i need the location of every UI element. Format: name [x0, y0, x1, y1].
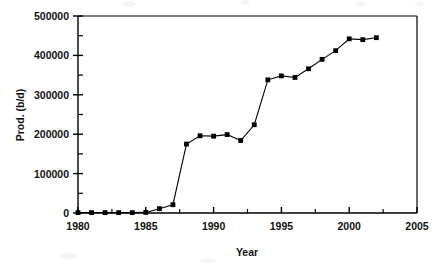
- data-point-marker: [198, 133, 203, 138]
- data-point-marker: [130, 210, 135, 215]
- y-tick-label: 200000: [34, 128, 69, 140]
- y-tick-label: 400000: [34, 49, 69, 61]
- data-series-markers: [76, 35, 379, 215]
- data-point-marker: [238, 138, 243, 143]
- data-point-marker: [89, 210, 94, 215]
- data-point-marker: [103, 210, 108, 215]
- data-point-marker: [184, 142, 189, 147]
- data-point-marker: [157, 206, 162, 211]
- data-point-marker: [333, 48, 338, 53]
- chart-figure: 198019851990199520002005 010000020000030…: [0, 0, 444, 269]
- line-chart-plot: 198019851990199520002005 010000020000030…: [0, 0, 444, 269]
- x-axis-tick-labels: 198019851990199520002005: [66, 220, 429, 232]
- x-tick-label: 1985: [134, 220, 158, 232]
- y-tick-label: 0: [63, 207, 69, 219]
- data-point-marker: [252, 122, 257, 127]
- x-axis-title: Year: [236, 246, 258, 258]
- axis-lines: [78, 16, 417, 213]
- x-tick-label: 1980: [66, 220, 90, 232]
- y-tick-label: 300000: [34, 89, 69, 101]
- data-point-marker: [306, 66, 311, 71]
- data-point-marker: [171, 202, 176, 207]
- y-axis-title: Prod. (b/d): [14, 89, 26, 142]
- data-point-marker: [293, 75, 298, 80]
- y-axis-tick-labels: 0100000200000300000400000500000: [34, 10, 69, 219]
- data-point-marker: [279, 73, 284, 78]
- x-tick-label: 1995: [270, 220, 294, 232]
- data-point-marker: [347, 36, 352, 41]
- data-point-marker: [360, 37, 365, 42]
- data-point-marker: [374, 35, 379, 40]
- data-point-marker: [225, 132, 230, 137]
- y-tick-label: 500000: [34, 10, 69, 22]
- data-point-marker: [211, 134, 216, 139]
- data-point-marker: [265, 77, 270, 82]
- x-tick-label: 1990: [202, 220, 226, 232]
- data-point-marker: [116, 210, 121, 215]
- x-tick-label: 2000: [338, 220, 362, 232]
- data-point-marker: [143, 210, 148, 215]
- data-point-marker: [320, 57, 325, 62]
- data-point-marker: [76, 210, 81, 215]
- x-tick-label: 2005: [405, 220, 429, 232]
- data-series-line: [78, 38, 376, 213]
- y-tick-label: 100000: [34, 168, 69, 180]
